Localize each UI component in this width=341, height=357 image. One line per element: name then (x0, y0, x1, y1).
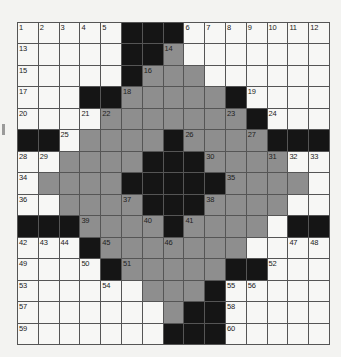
shaded-cell[interactable]: 23 (226, 109, 246, 129)
shaded-cell[interactable] (60, 152, 80, 172)
grid-cell[interactable]: 59 (18, 324, 38, 344)
shaded-cell[interactable] (184, 281, 204, 301)
grid-cell[interactable] (226, 66, 246, 86)
shaded-cell[interactable] (143, 130, 163, 150)
grid-cell[interactable] (288, 281, 308, 301)
grid-cell[interactable]: 58 (226, 302, 246, 322)
shaded-cell[interactable] (101, 173, 121, 193)
grid-cell[interactable] (309, 44, 329, 64)
grid-cell[interactable] (39, 87, 59, 107)
grid-cell[interactable] (309, 281, 329, 301)
grid-cell[interactable] (39, 281, 59, 301)
grid-cell[interactable]: 57 (18, 302, 38, 322)
shaded-cell[interactable] (205, 130, 225, 150)
grid-cell[interactable]: 8 (226, 23, 246, 43)
grid-cell[interactable]: 21 (80, 109, 100, 129)
shaded-cell[interactable] (247, 173, 267, 193)
shaded-cell[interactable] (247, 195, 267, 215)
shaded-cell[interactable] (143, 259, 163, 279)
shaded-cell[interactable]: 45 (101, 238, 121, 258)
grid-cell[interactable]: 20 (18, 109, 38, 129)
grid-cell[interactable] (101, 324, 121, 344)
grid-cell[interactable]: 53 (18, 281, 38, 301)
shaded-cell[interactable]: 37 (122, 195, 142, 215)
grid-cell[interactable]: 10 (268, 23, 288, 43)
shaded-cell[interactable] (143, 109, 163, 129)
grid-cell[interactable] (101, 44, 121, 64)
shaded-cell[interactable] (184, 259, 204, 279)
shaded-cell[interactable] (143, 281, 163, 301)
shaded-cell[interactable]: 22 (101, 109, 121, 129)
shaded-cell[interactable] (122, 109, 142, 129)
grid-cell[interactable]: 7 (205, 23, 225, 43)
grid-cell[interactable]: 52 (268, 259, 288, 279)
shaded-cell[interactable] (164, 302, 184, 322)
grid-cell[interactable] (247, 66, 267, 86)
grid-cell[interactable]: 4 (80, 23, 100, 43)
shaded-cell[interactable] (184, 66, 204, 86)
grid-cell[interactable] (288, 195, 308, 215)
grid-cell[interactable] (80, 324, 100, 344)
shaded-cell[interactable]: 30 (205, 152, 225, 172)
shaded-cell[interactable] (184, 87, 204, 107)
grid-cell[interactable] (309, 302, 329, 322)
grid-cell[interactable] (268, 324, 288, 344)
grid-cell[interactable]: 32 (288, 152, 308, 172)
grid-cell[interactable] (60, 66, 80, 86)
grid-cell[interactable]: 1 (18, 23, 38, 43)
shaded-cell[interactable] (205, 216, 225, 236)
shaded-cell[interactable]: 38 (205, 195, 225, 215)
grid-cell[interactable]: 50 (80, 259, 100, 279)
grid-cell[interactable]: 25 (60, 130, 80, 150)
shaded-cell[interactable] (247, 152, 267, 172)
grid-cell[interactable]: 33 (309, 152, 329, 172)
shaded-cell[interactable] (101, 216, 121, 236)
shaded-cell[interactable] (226, 130, 246, 150)
grid-cell[interactable] (143, 324, 163, 344)
grid-cell[interactable] (101, 302, 121, 322)
grid-cell[interactable]: 19 (247, 87, 267, 107)
grid-cell[interactable] (60, 324, 80, 344)
grid-cell[interactable]: 28 (18, 152, 38, 172)
grid-cell[interactable] (309, 259, 329, 279)
grid-cell[interactable] (60, 87, 80, 107)
shaded-cell[interactable]: 14 (164, 44, 184, 64)
shaded-cell[interactable] (80, 130, 100, 150)
shaded-cell[interactable] (184, 238, 204, 258)
shaded-cell[interactable] (164, 281, 184, 301)
shaded-cell[interactable] (205, 87, 225, 107)
shaded-cell[interactable] (164, 66, 184, 86)
grid-cell[interactable] (122, 324, 142, 344)
shaded-cell[interactable]: 46 (164, 238, 184, 258)
grid-cell[interactable] (288, 66, 308, 86)
grid-cell[interactable]: 17 (18, 87, 38, 107)
grid-cell[interactable] (268, 216, 288, 236)
grid-cell[interactable] (39, 109, 59, 129)
grid-cell[interactable]: 36 (18, 195, 38, 215)
shaded-cell[interactable] (122, 238, 142, 258)
shaded-cell[interactable] (122, 152, 142, 172)
grid-cell[interactable] (226, 44, 246, 64)
shaded-cell[interactable] (164, 109, 184, 129)
shaded-cell[interactable]: 40 (143, 216, 163, 236)
grid-cell[interactable]: 34 (18, 173, 38, 193)
shaded-cell[interactable] (205, 259, 225, 279)
grid-cell[interactable] (122, 302, 142, 322)
shaded-cell[interactable] (39, 173, 59, 193)
shaded-cell[interactable]: 31 (268, 152, 288, 172)
shaded-cell[interactable]: 26 (184, 130, 204, 150)
shaded-cell[interactable] (226, 238, 246, 258)
shaded-cell[interactable] (143, 238, 163, 258)
grid-cell[interactable]: 43 (39, 238, 59, 258)
shaded-cell[interactable] (164, 259, 184, 279)
grid-cell[interactable] (309, 173, 329, 193)
grid-cell[interactable]: 9 (247, 23, 267, 43)
shaded-cell[interactable] (60, 173, 80, 193)
grid-cell[interactable] (309, 324, 329, 344)
shaded-cell[interactable] (164, 87, 184, 107)
shaded-cell[interactable] (247, 216, 267, 236)
grid-cell[interactable] (101, 66, 121, 86)
grid-cell[interactable] (39, 44, 59, 64)
grid-cell[interactable]: 47 (288, 238, 308, 258)
shaded-cell[interactable]: 39 (80, 216, 100, 236)
